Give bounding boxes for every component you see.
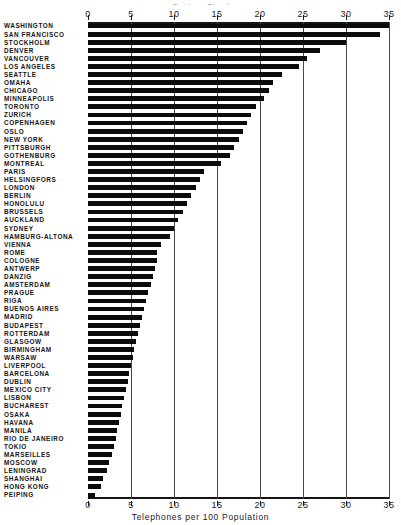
- city-label: HONOLULU: [0, 200, 82, 207]
- city-label: BRUSSELS: [0, 208, 82, 215]
- bar: [88, 323, 140, 328]
- bar-row: [88, 32, 389, 37]
- bar-row: [88, 436, 389, 441]
- bar-row: [88, 444, 389, 449]
- city-label: AMSTERDAM: [0, 281, 82, 288]
- chart-title-text: Century Chart: [172, 2, 230, 5]
- city-label: WASHINGTON: [0, 22, 82, 29]
- x-tick-label-bottom: 35: [383, 500, 394, 510]
- city-label: MONTREAL: [0, 160, 82, 167]
- city-label: MANILA: [0, 427, 82, 434]
- city-label: HELSINGFORS: [0, 176, 82, 183]
- bar-row: [88, 169, 389, 174]
- bar: [88, 201, 187, 206]
- bar: [88, 282, 151, 287]
- bar-row: [88, 493, 389, 498]
- bar: [88, 121, 247, 126]
- bar: [88, 250, 157, 255]
- bar-row: [88, 355, 389, 360]
- city-label: ROME: [0, 249, 82, 256]
- bar-row: [88, 420, 389, 425]
- city-label: MOSCOW: [0, 459, 82, 466]
- bar: [88, 72, 282, 77]
- bar-row: [88, 210, 389, 215]
- city-label: PEIPING: [0, 491, 82, 498]
- tick-mark-top: [88, 15, 89, 20]
- bar: [88, 404, 122, 409]
- bar: [88, 290, 148, 295]
- bar: [88, 331, 138, 336]
- bar-row: [88, 258, 389, 263]
- bar-row: [88, 412, 389, 417]
- bar: [88, 56, 307, 61]
- bar-row: [88, 468, 389, 473]
- bar: [88, 218, 178, 223]
- city-label: VIENNA: [0, 241, 82, 248]
- city-label: VANCOUVER: [0, 55, 82, 62]
- tick-mark-top: [217, 15, 218, 20]
- city-label: TORONTO: [0, 103, 82, 110]
- city-label: SAN FRANCISCO: [0, 31, 82, 38]
- bar-row: [88, 274, 389, 279]
- bar: [88, 452, 112, 457]
- bar: [88, 193, 191, 198]
- bar-row: [88, 282, 389, 287]
- bar: [88, 104, 256, 109]
- bar: [88, 137, 239, 142]
- bar-row: [88, 323, 389, 328]
- city-label: OSAKA: [0, 411, 82, 418]
- bar: [88, 40, 346, 45]
- bar: [88, 64, 299, 69]
- bar-row: [88, 331, 389, 336]
- city-label: BIRMINGHAM: [0, 346, 82, 353]
- city-label: HAVANA: [0, 419, 82, 426]
- telephones-bar-chart: Century Chart 05101520253035 WASHINGTONS…: [0, 0, 401, 525]
- bar: [88, 226, 174, 231]
- city-label: LIVERPOOL: [0, 362, 82, 369]
- city-label: STOCKHOLM: [0, 39, 82, 46]
- city-label: MEXICO CITY: [0, 386, 82, 393]
- bar: [88, 129, 243, 134]
- gridline: [389, 22, 390, 499]
- city-label: HONG KONG: [0, 483, 82, 490]
- bar-row: [88, 234, 389, 239]
- bar-row: [88, 363, 389, 368]
- bar-row: [88, 88, 389, 93]
- bar: [88, 339, 136, 344]
- bar-row: [88, 72, 389, 77]
- bar-row: [88, 129, 389, 134]
- bar-row: [88, 40, 389, 45]
- bar-row: [88, 201, 389, 206]
- bar: [88, 274, 153, 279]
- city-label: TOKIO: [0, 443, 82, 450]
- bar: [88, 396, 124, 401]
- city-label: SHANGHAI: [0, 475, 82, 482]
- bar-row: [88, 371, 389, 376]
- city-label: DANZIG: [0, 273, 82, 280]
- bar-row: [88, 339, 389, 344]
- bar: [88, 420, 119, 425]
- bar-row: [88, 64, 389, 69]
- city-label: CHICAGO: [0, 87, 82, 94]
- city-label: ROTTERDAM: [0, 330, 82, 337]
- tick-mark-top: [260, 15, 261, 20]
- bar: [88, 258, 157, 263]
- city-label: LONDON: [0, 184, 82, 191]
- x-tick-label-bottom: 0: [85, 500, 91, 510]
- bar-row: [88, 80, 389, 85]
- bar-row: [88, 452, 389, 457]
- bar: [88, 145, 234, 150]
- bar-row: [88, 396, 389, 401]
- bar-row: [88, 145, 389, 150]
- city-label: LISBON: [0, 394, 82, 401]
- x-axis-bottom: 05101520253035: [0, 500, 401, 512]
- city-label: COPENHAGEN: [0, 119, 82, 126]
- x-axis-top: 05101520253035: [0, 9, 401, 21]
- city-label: RIO DE JANEIRO: [0, 435, 82, 442]
- x-tick-label-bottom: 15: [211, 500, 222, 510]
- bar: [88, 363, 131, 368]
- bar: [88, 460, 109, 465]
- city-label: RIGA: [0, 297, 82, 304]
- city-label: LENINGRAD: [0, 467, 82, 474]
- bar: [88, 32, 380, 37]
